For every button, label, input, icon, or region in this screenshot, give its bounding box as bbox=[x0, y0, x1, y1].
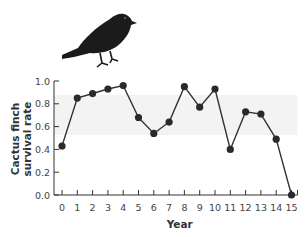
y-tick-label: 0.4 bbox=[35, 144, 50, 155]
x-tick-label: 5 bbox=[135, 202, 141, 213]
x-tick-label: 11 bbox=[224, 202, 236, 213]
x-tick-label: 9 bbox=[197, 202, 203, 213]
x-axis-title: Year bbox=[166, 218, 194, 230]
x-tick-label: 13 bbox=[255, 202, 267, 213]
data-point bbox=[58, 142, 65, 149]
x-tick-label: 7 bbox=[166, 202, 172, 213]
x-tick-label: 15 bbox=[285, 202, 297, 213]
data-point bbox=[288, 191, 295, 198]
x-tick-label: 6 bbox=[151, 202, 157, 213]
data-point bbox=[150, 130, 157, 137]
x-tick-label: 10 bbox=[209, 202, 221, 213]
x-tick-label: 4 bbox=[120, 202, 126, 213]
x-tick-label: 12 bbox=[240, 202, 252, 213]
x-tick-label: 1 bbox=[74, 202, 80, 213]
x-tick-label: 14 bbox=[270, 202, 282, 213]
data-point bbox=[120, 82, 127, 89]
data-point bbox=[211, 85, 218, 92]
y-tick-label: 1.0 bbox=[35, 76, 50, 87]
y-tick-label: 0.6 bbox=[35, 121, 50, 132]
x-tick-label: 3 bbox=[105, 202, 111, 213]
survival-line-chart: 0.00.20.40.60.81.00123456789101112131415… bbox=[0, 0, 307, 237]
y-tick-label: 0.0 bbox=[35, 190, 50, 201]
data-point bbox=[74, 95, 81, 102]
data-point bbox=[242, 108, 249, 115]
data-point bbox=[196, 104, 203, 111]
data-point bbox=[181, 83, 188, 90]
y-tick-label: 0.8 bbox=[35, 98, 50, 109]
x-tick-label: 2 bbox=[90, 202, 96, 213]
data-point bbox=[227, 146, 234, 153]
y-tick-label: 0.2 bbox=[35, 167, 50, 178]
data-point bbox=[89, 90, 96, 97]
data-point bbox=[273, 136, 280, 143]
data-point bbox=[257, 110, 264, 117]
y-axis-title: Cactus finchsurvival rate bbox=[9, 102, 33, 177]
data-point bbox=[166, 118, 173, 125]
data-point bbox=[135, 114, 142, 121]
data-point bbox=[104, 85, 111, 92]
x-tick-label: 0 bbox=[59, 202, 65, 213]
x-tick-label: 8 bbox=[181, 202, 187, 213]
